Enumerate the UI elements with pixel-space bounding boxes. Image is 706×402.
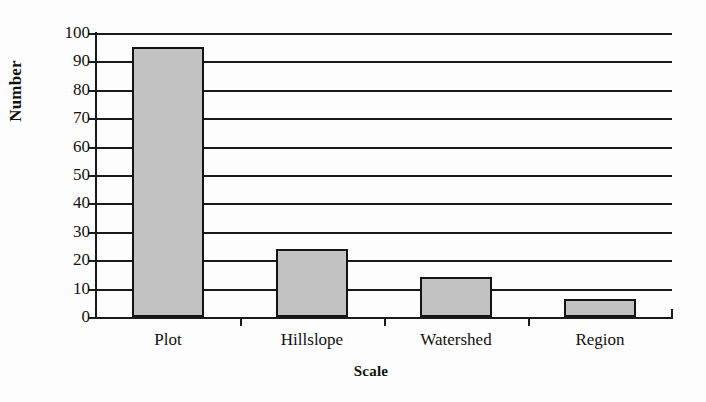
y-axis-tick-label: 30: [46, 223, 90, 240]
x-axis-tick-label-region: Region: [528, 330, 672, 350]
y-axis-tick-mark: [88, 33, 96, 35]
y-axis-tick-mark: [88, 175, 96, 177]
y-axis-tick-label: 90: [46, 52, 90, 69]
x-axis-tick-label-hillslope: Hillslope: [240, 330, 384, 350]
y-axis-tick-labels: 0102030405060708090100: [44, 0, 90, 402]
bar-watershed: [420, 277, 492, 317]
x-axis-tick-mark: [528, 317, 530, 326]
y-axis-tick-mark: [88, 90, 96, 92]
y-axis-tick-label: 70: [46, 109, 90, 126]
gridline: [96, 33, 672, 35]
y-axis-tick-label: 80: [46, 81, 90, 98]
bar-hillslope: [276, 249, 348, 317]
x-axis-tick-mark: [384, 317, 386, 326]
y-axis-tick-label: 40: [46, 194, 90, 211]
y-axis-tick-mark: [88, 147, 96, 149]
bar-region: [564, 299, 636, 317]
y-axis-tick-label: 60: [46, 138, 90, 155]
x-axis-endcap-right: [671, 309, 673, 318]
x-axis-tick-label-plot: Plot: [96, 330, 240, 350]
y-axis-tick-mark: [88, 118, 96, 120]
y-axis-tick-label: 20: [46, 251, 90, 268]
y-axis-tick-mark: [88, 289, 96, 291]
y-axis-tick-mark: [88, 317, 96, 319]
x-axis-title: Scale: [0, 363, 706, 380]
y-axis-tick-label: 50: [46, 166, 90, 183]
bar-plot: [132, 47, 204, 317]
y-axis-tick-mark: [88, 232, 96, 234]
plot-area: [96, 33, 672, 317]
y-axis-tick-mark: [88, 61, 96, 63]
y-axis-title: Number: [6, 26, 30, 156]
y-axis-tick-mark: [88, 260, 96, 262]
y-axis-tick-label: 10: [46, 280, 90, 297]
x-axis-title-text: Scale: [354, 363, 388, 379]
x-axis-tick-mark: [240, 317, 242, 326]
bar-chart-figure: Number 0102030405060708090100 Scale Plot…: [0, 0, 706, 402]
y-axis-tick-label: 0: [46, 308, 90, 325]
y-axis-tick-label: 100: [46, 24, 90, 41]
y-axis-tick-mark: [88, 203, 96, 205]
x-axis-tick-label-watershed: Watershed: [384, 330, 528, 350]
